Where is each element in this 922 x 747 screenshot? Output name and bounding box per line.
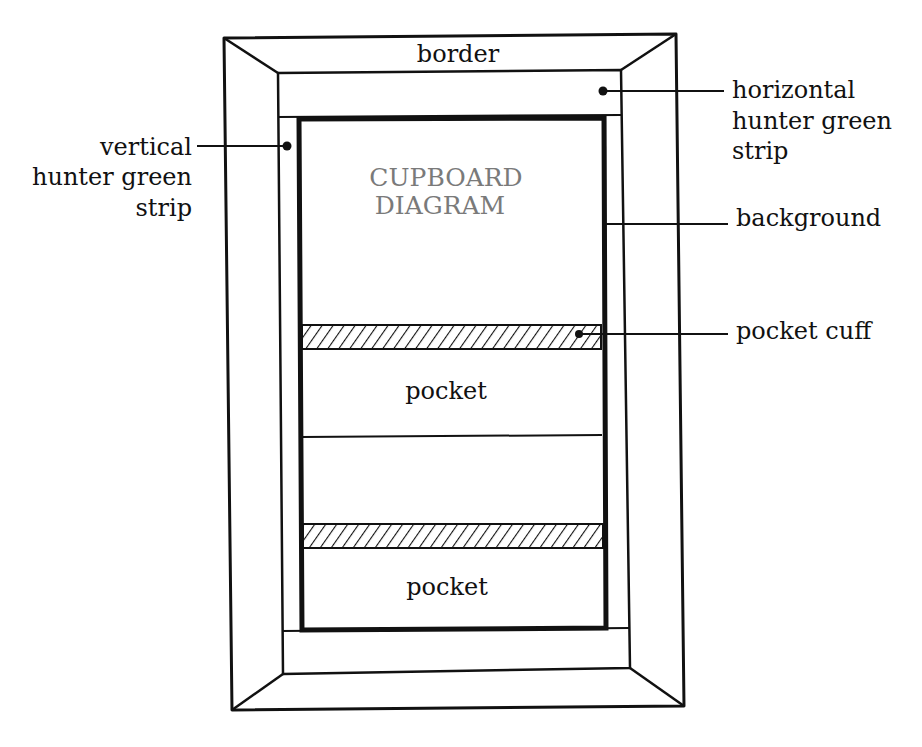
label-border: border — [417, 40, 500, 68]
callout-background: background — [606, 204, 881, 232]
callout-horizontal-strip: horizontal hunter green strip — [599, 76, 893, 165]
label-horizontal-strip-3: strip — [732, 137, 788, 165]
callout-dot-icon — [283, 142, 292, 151]
label-horizontal-strip-1: horizontal — [732, 76, 855, 104]
callout-vertical-strip: vertical hunter green strip — [32, 133, 292, 222]
label-pocket-cuff: pocket cuff — [736, 317, 873, 345]
diagram-title-line2: DIAGRAM — [375, 191, 505, 220]
label-background: background — [736, 204, 881, 232]
label-pocket-upper: pocket — [405, 377, 487, 405]
diagram-title-line1: CUPBOARD — [369, 163, 522, 192]
pocket-cuff-upper — [302, 325, 601, 349]
label-pocket-lower: pocket — [406, 573, 488, 601]
label-vertical-strip-3: strip — [136, 194, 192, 222]
pocket-cuff-lower — [303, 524, 603, 548]
callout-dot-icon — [575, 330, 583, 338]
label-horizontal-strip-2: hunter green — [732, 107, 892, 135]
callout-dot-icon — [599, 87, 608, 96]
label-vertical-strip-2: hunter green — [32, 163, 192, 191]
cupboard-diagram: CUPBOARD DIAGRAM border pocket pocket ve… — [0, 0, 922, 747]
label-vertical-strip-1: vertical — [99, 133, 192, 161]
callout-pocket-cuff: pocket cuff — [575, 317, 873, 345]
